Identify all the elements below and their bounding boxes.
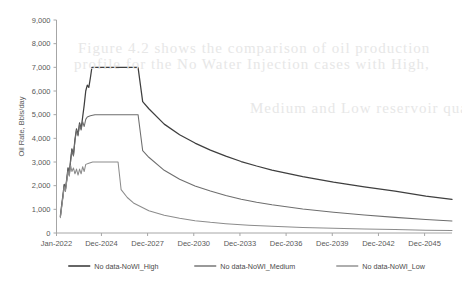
series-line-2 bbox=[60, 162, 452, 231]
y-tick-label: 3,000 bbox=[32, 158, 51, 167]
chart-canvas: 01,0002,0003,0004,0005,0006,0007,0008,00… bbox=[0, 0, 462, 286]
y-tick-label: 7,000 bbox=[32, 63, 51, 72]
y-tick-label: 4,000 bbox=[32, 134, 51, 143]
series-lines bbox=[60, 67, 452, 230]
y-tick-label: 1,000 bbox=[32, 205, 51, 214]
x-tick-label: Jan-2022 bbox=[41, 239, 72, 248]
x-tick-label: Dec-2030 bbox=[178, 239, 211, 248]
x-tick-label: Dec-2024 bbox=[85, 239, 118, 248]
legend-label-1: No data-NoWI_Medium bbox=[220, 262, 295, 271]
legend-label-0: No data-NoWI_High bbox=[94, 262, 158, 271]
x-tick-label: Dec-2036 bbox=[270, 239, 303, 248]
x-tick-label: Dec-2039 bbox=[316, 239, 349, 248]
y-tick-label: 6,000 bbox=[32, 87, 51, 96]
x-tick-label: Dec-2033 bbox=[224, 239, 257, 248]
y-tick-label: 8,000 bbox=[32, 39, 51, 48]
y-tick-label: 9,000 bbox=[32, 16, 51, 25]
x-tick-label: Dec-2042 bbox=[362, 239, 395, 248]
y-axis-ticks: 01,0002,0003,0004,0005,0006,0007,0008,00… bbox=[32, 16, 57, 238]
x-tick-label: Dec-2027 bbox=[131, 239, 164, 248]
y-tick-label: 2,000 bbox=[32, 181, 51, 190]
y-axis-title: Oil Rate, Bbls/day bbox=[17, 96, 26, 156]
legend-label-2: No data-NoWI_Low bbox=[362, 262, 426, 271]
chart-legend: No data-NoWI_HighNo data-NoWI_MediumNo d… bbox=[68, 262, 426, 271]
x-axis-ticks: Jan-2022Dec-2024Dec-2027Dec-2030Dec-2033… bbox=[41, 233, 441, 248]
oil-rate-chart: Figure 4.2 shows the comparison of oil p… bbox=[0, 0, 462, 286]
y-tick-label: 0 bbox=[46, 229, 50, 238]
series-line-0 bbox=[60, 67, 452, 216]
y-tick-label: 5,000 bbox=[32, 110, 51, 119]
x-tick-label: Dec-2045 bbox=[408, 239, 441, 248]
